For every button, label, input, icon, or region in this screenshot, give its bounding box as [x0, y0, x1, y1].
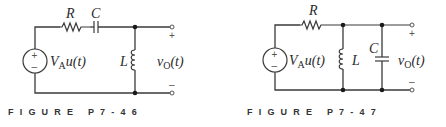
output-terminal-minus	[170, 91, 174, 95]
svg-text:+: +	[32, 50, 38, 61]
capacitor-icon	[375, 25, 389, 90]
capacitor-icon	[90, 21, 172, 33]
bottom-wire	[35, 73, 172, 93]
output-voltage-label: vO(t)	[398, 53, 425, 70]
inductor-icon	[131, 27, 135, 93]
junction-node	[133, 91, 138, 96]
junction-node	[133, 25, 138, 30]
capacitor-label: C	[369, 41, 379, 56]
source-label: VAu(t)	[50, 54, 86, 71]
svg-text:–: –	[32, 61, 38, 72]
svg-text:+: +	[272, 49, 278, 60]
minus-sign: –	[409, 76, 415, 87]
inductor-label: L	[119, 54, 128, 69]
circuit-figures: R C + – VAu(t) L + –	[0, 0, 446, 127]
figure-caption: FIGURE P7-47	[247, 107, 382, 117]
output-terminal-minus	[410, 88, 414, 92]
inductor-label: L	[351, 53, 360, 68]
inductor-icon	[339, 25, 343, 90]
resistor-icon	[60, 23, 90, 31]
capacitor-label: C	[91, 6, 101, 21]
resistor-label: R	[65, 6, 75, 21]
svg-text:–: –	[272, 60, 278, 71]
left-top-wire	[275, 25, 300, 48]
figure-caption: FIGURE P7-46	[8, 107, 143, 117]
minus-sign: –	[169, 79, 175, 90]
source-label: VAu(t)	[289, 53, 325, 70]
junction-node	[341, 88, 346, 93]
output-voltage-label: vO(t)	[157, 54, 184, 71]
figure-p7-46: R C + – VAu(t) L + –	[8, 6, 184, 117]
plus-sign: +	[169, 30, 175, 41]
junction-node	[380, 23, 385, 28]
resistor-icon	[300, 21, 412, 29]
junction-node	[341, 23, 346, 28]
plus-sign: +	[409, 28, 415, 39]
left-top-wire	[35, 27, 60, 49]
figure-p7-47: R + – VAu(t) L C + –	[247, 3, 425, 117]
junction-node	[380, 88, 385, 93]
output-terminal-plus	[170, 25, 174, 29]
voltage-source-icon: + –	[23, 49, 47, 73]
output-terminal-plus	[410, 23, 414, 27]
resistor-label: R	[308, 3, 318, 18]
voltage-source-icon: + –	[263, 48, 287, 72]
